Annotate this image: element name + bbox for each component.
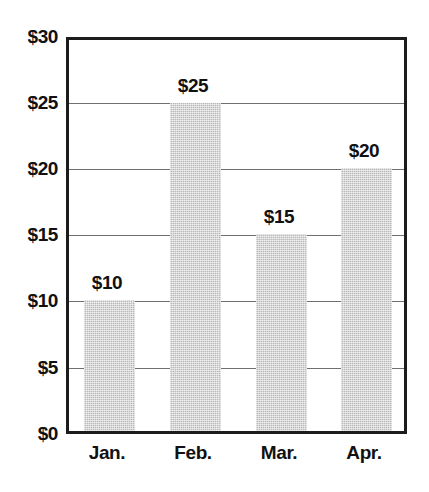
bar-value-jan: $10: [92, 272, 123, 294]
y-axis-tick-15: $15: [0, 224, 58, 246]
bar-apr: [341, 168, 392, 431]
plot-area: [66, 37, 407, 434]
bar-jan: [84, 300, 135, 431]
y-axis-tick-25: $25: [0, 92, 58, 114]
bar-value-apr: $20: [349, 140, 380, 162]
bar-feb: [170, 103, 221, 431]
y-axis-tick-10: $10: [0, 290, 58, 312]
x-axis-label-feb: Feb.: [174, 442, 211, 464]
bar-mar: [256, 234, 307, 431]
y-axis-tick-0: $0: [0, 423, 58, 445]
chart-title-cropped: [0, 0, 429, 4]
y-axis-tick-30: $30: [0, 26, 58, 48]
y-axis-tick-20: $20: [0, 158, 58, 180]
y-axis-tick-5: $5: [0, 357, 58, 379]
gridline-25: [69, 103, 404, 104]
x-axis-label-jan: Jan.: [89, 442, 125, 464]
bar-chart: $30 $25 $20 $15 $10 $5 $0 $10 $25 $15 $2…: [0, 0, 429, 492]
x-axis-label-mar: Mar.: [261, 442, 297, 464]
bar-value-feb: $25: [178, 75, 209, 97]
bar-value-mar: $15: [264, 206, 295, 228]
x-axis-label-apr: Apr.: [346, 442, 381, 464]
